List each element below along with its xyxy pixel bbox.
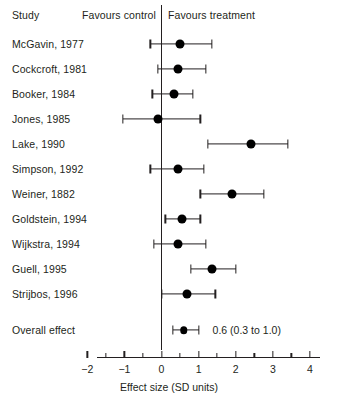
axis-tick-major [161,351,162,358]
effect-point-marker [174,65,183,74]
ci-cap-lower [150,165,151,174]
effect-point-marker [174,165,183,174]
overall-effect-value: 0.6 (0.3 to 1.0) [213,324,281,336]
study-label: Goldstein, 1994 [12,213,87,225]
study-label: Guell, 1995 [12,263,67,275]
axis-tick-minor [179,353,180,358]
ci-cap-lower [122,115,123,124]
study-label: Weiner, 1882 [12,188,75,200]
ci-cap-lower [157,65,158,74]
ci-cap-lower [200,190,201,199]
study-label: Jones, 1985 [12,113,70,125]
ci-cap-upper [211,40,212,49]
axis-tick-major [198,351,199,358]
ci-cap-lower [152,90,153,99]
axis-tick-label: 2 [233,363,239,375]
ci-cap-lower [191,265,192,274]
ci-cap-upper [235,265,236,274]
ci-cap-upper [215,290,216,299]
effect-point-marker [227,190,236,199]
axis-tick-label: −2 [81,363,93,375]
x-axis-title: Effect size (SD units) [0,381,338,393]
axis-tick-major [272,351,273,358]
x-axis-line [97,357,320,358]
ci-cap-upper [198,326,199,335]
axis-tick-label: 3 [270,363,276,375]
axis-tick-minor [291,353,292,358]
effect-point-marker [170,90,179,99]
study-label: Wijkstra, 1994 [12,238,80,250]
ci-cap-upper [200,215,201,224]
axis-tick-minor [216,353,217,358]
favours-treatment-label: Favours treatment [168,9,255,21]
axis-tick-major [124,351,125,358]
ci-cap-lower [150,40,151,49]
effect-point-marker [177,215,186,224]
ci-cap-lower [153,240,154,249]
column-header-study: Study [12,9,39,21]
study-label: McGavin, 1977 [12,38,84,50]
axis-tick-major [87,351,88,358]
effect-point-marker [153,115,162,124]
effect-point-marker [183,290,192,299]
ci-cap-lower [207,140,208,149]
axis-tick-label: 4 [307,363,313,375]
effect-point-marker [207,265,216,274]
axis-tick-label: 1 [196,363,202,375]
axis-tick-major [309,351,310,358]
study-label: Cockcroft, 1981 [12,63,87,75]
effect-point-marker [176,40,185,49]
effect-point-marker [174,240,183,249]
overall-effect-label: Overall effect [12,324,75,336]
ci-cap-lower [161,290,162,299]
axis-tick-label: −1 [118,363,130,375]
ci-cap-upper [287,140,288,149]
ci-cap-upper [263,190,264,199]
axis-tick-major [235,351,236,358]
ci-cap-lower [172,326,173,335]
favours-control-label: Favours control [82,9,156,21]
ci-cap-upper [192,90,193,99]
ci-cap-upper [205,65,206,74]
axis-tick-minor [105,353,106,358]
ci-cap-lower [165,215,166,224]
axis-tick-label: 0 [159,363,165,375]
study-label: Strijbos, 1996 [12,288,78,300]
study-label: Lake, 1990 [12,138,65,150]
study-label: Simpson, 1992 [12,163,83,175]
axis-tick-minor [254,353,255,358]
ci-cap-upper [200,115,201,124]
forest-plot: Study Favours control Favours treatment … [0,0,338,401]
ci-cap-upper [204,165,205,174]
effect-point-marker [180,326,188,334]
ci-cap-upper [205,240,206,249]
study-label: Booker, 1984 [12,88,75,100]
axis-tick-minor [142,353,143,358]
effect-point-marker [246,140,255,149]
